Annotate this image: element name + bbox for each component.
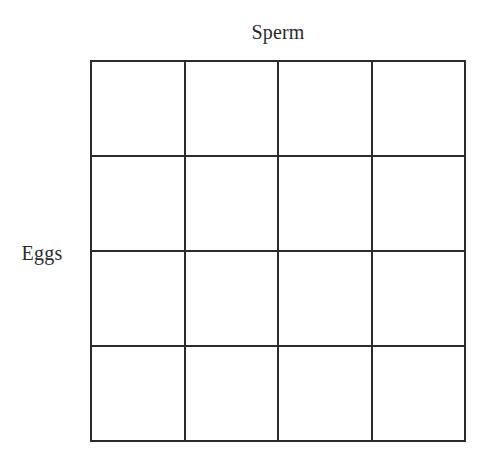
grid-cell[interactable] [186, 347, 278, 440]
grid-cell[interactable] [92, 62, 184, 155]
grid-cell[interactable] [92, 347, 184, 440]
grid-cell[interactable] [92, 157, 184, 250]
grid-cell[interactable] [186, 157, 278, 250]
grid-cell[interactable] [279, 347, 371, 440]
grid-cell[interactable] [279, 252, 371, 345]
grid-cell[interactable] [186, 252, 278, 345]
grid-cell[interactable] [373, 347, 465, 440]
grid-cell[interactable] [373, 252, 465, 345]
grid-cell[interactable] [186, 62, 278, 155]
column-axis-label-sperm: Sperm [90, 20, 466, 44]
row-axis-label-eggs: Eggs [0, 241, 84, 265]
grid-cell[interactable] [279, 157, 371, 250]
punnett-square-diagram: Sperm Eggs [0, 0, 493, 466]
grid-cell[interactable] [92, 252, 184, 345]
punnett-grid [90, 60, 466, 442]
grid-cell[interactable] [279, 62, 371, 155]
grid-cell[interactable] [373, 157, 465, 250]
grid-cell[interactable] [373, 62, 465, 155]
